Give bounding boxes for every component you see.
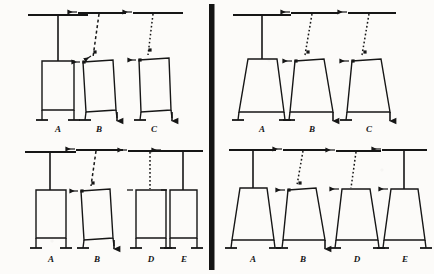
mid-marker — [93, 50, 96, 53]
leg-left — [346, 112, 347, 120]
mid-marker — [91, 181, 94, 184]
leg-left — [85, 112, 86, 120]
body-marker — [80, 189, 83, 192]
leg-left — [282, 240, 283, 248]
body-marker — [351, 59, 354, 62]
mid-marker — [306, 50, 309, 53]
figure-label: D — [147, 254, 155, 264]
diagram-canvas: A B — [0, 0, 434, 274]
figure-label: E — [180, 254, 187, 264]
figure-label: B — [308, 124, 315, 134]
leg-left — [289, 112, 290, 120]
figure-label: B — [95, 124, 102, 134]
mid-marker — [298, 181, 301, 184]
leg-left — [83, 240, 84, 248]
page-background — [0, 0, 434, 274]
leg-left — [140, 112, 141, 120]
leg-right — [284, 112, 285, 120]
diagram-sheet: A B — [0, 0, 434, 274]
figure-label: D — [353, 254, 361, 264]
leg-right — [378, 240, 379, 248]
mid-marker — [363, 50, 366, 53]
leg-right — [425, 240, 426, 248]
leg-left — [383, 240, 384, 248]
figure-label: A — [54, 124, 61, 134]
figure-label: A — [47, 254, 54, 264]
body-marker — [138, 58, 141, 61]
leg-right — [274, 240, 275, 248]
figure-label: A — [249, 254, 256, 264]
body-marker — [287, 188, 290, 191]
figure-label: B — [299, 254, 306, 264]
leg-left — [231, 240, 232, 248]
figure-label: C — [151, 124, 158, 134]
leg-left — [335, 240, 336, 248]
figure-label: A — [258, 124, 265, 134]
figure-label: C — [366, 124, 373, 134]
panel-divider — [209, 4, 215, 270]
body-marker — [82, 60, 85, 63]
figure-label: B — [93, 254, 100, 264]
figure-label: E — [401, 254, 408, 264]
mid-marker — [148, 48, 151, 51]
leg-left — [238, 112, 239, 120]
body-marker — [294, 59, 297, 62]
